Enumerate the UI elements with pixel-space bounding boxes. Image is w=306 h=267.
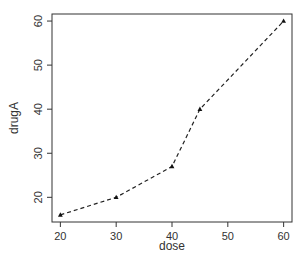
plot-frame (52, 14, 292, 222)
y-tick-label: 50 (32, 59, 44, 71)
y-tick-label: 20 (32, 191, 44, 203)
x-axis-label: dose (159, 239, 185, 253)
y-tick-label: 60 (32, 15, 44, 27)
x-tick-label: 60 (278, 230, 290, 242)
triangle-marker-icon (198, 107, 203, 111)
triangle-marker-icon (170, 164, 175, 168)
x-tick-label: 30 (110, 230, 122, 242)
x-tick-label: 20 (54, 230, 66, 242)
data-line (60, 21, 283, 215)
x-tick-label: 50 (222, 230, 234, 242)
triangle-marker-icon (281, 18, 286, 22)
y-tick-label: 30 (32, 147, 44, 159)
line-chart: 2030405060 2030405060 dose drugA (0, 0, 306, 267)
y-axis: 2030405060 (32, 15, 52, 204)
y-axis-label: drugA (7, 102, 21, 134)
y-tick-label: 40 (32, 103, 44, 115)
data-markers (58, 18, 286, 216)
triangle-marker-icon (114, 195, 119, 199)
